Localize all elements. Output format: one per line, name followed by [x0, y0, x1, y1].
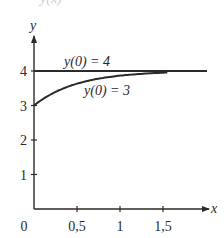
- solution-curves-chart: x y 00,511,5 1234 y(0) = 4 y(0) = 3: [0, 0, 224, 238]
- y-tick-label: 2: [20, 133, 27, 148]
- x-tick-label: 0: [21, 219, 28, 234]
- y-axis-label: y: [28, 18, 37, 33]
- x-tick-label: 0,5: [68, 219, 86, 234]
- y-tick-label: 4: [20, 64, 27, 79]
- x-ticks: 00,511,5: [21, 206, 172, 234]
- y-tick-label: 3: [20, 99, 27, 114]
- x-tick-label: 1: [117, 219, 124, 234]
- annotation-y0-3: y(0) = 3: [82, 83, 130, 99]
- annotation-y0-4: y(0) = 4: [62, 54, 110, 70]
- x-tick-label: 1,5: [154, 219, 172, 234]
- x-axis-label: x: [210, 201, 218, 216]
- y-tick-label: 1: [20, 168, 27, 183]
